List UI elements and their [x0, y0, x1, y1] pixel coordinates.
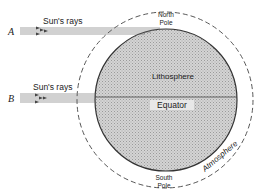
ray-b-marker: B [8, 93, 14, 104]
south-pole-label: South [156, 174, 173, 181]
lithosphere-label: Lithosphere [152, 72, 194, 81]
equator-label: Equator [157, 100, 187, 110]
earth-sun-rays-diagram: A B Sun's rays Sun's rays North Pole Lit… [0, 0, 261, 195]
ray-b-label: Sun's rays [33, 82, 72, 92]
ray-a-marker: A [7, 26, 15, 37]
north-pole-label-2: Pole [159, 19, 172, 26]
south-pole-label-2: Pole [157, 182, 170, 189]
ray-bundle-b [20, 94, 96, 102]
ray-a-label: Sun's rays [43, 16, 82, 26]
north-pole-label: North [158, 11, 174, 18]
